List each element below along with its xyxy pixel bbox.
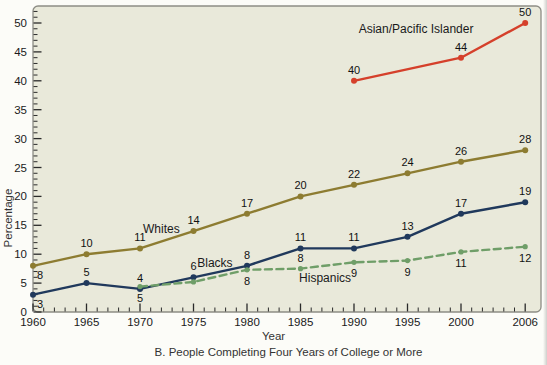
data-point bbox=[351, 260, 356, 265]
point-value-label: 13 bbox=[401, 220, 413, 232]
point-value-label: 5 bbox=[137, 292, 143, 304]
point-value-label: 8 bbox=[244, 249, 250, 261]
data-point bbox=[405, 170, 411, 176]
data-point bbox=[523, 244, 528, 249]
data-point bbox=[351, 182, 357, 188]
x-tick-label: 2000 bbox=[448, 316, 474, 328]
series-name-label-whites: Whites bbox=[143, 222, 180, 236]
y-tick-label: 50 bbox=[14, 17, 27, 29]
point-value-label: 4 bbox=[137, 272, 143, 284]
point-value-label: 8 bbox=[297, 252, 303, 264]
data-point bbox=[351, 245, 357, 251]
data-point bbox=[30, 292, 36, 298]
data-point bbox=[458, 249, 463, 254]
y-tick-label: 25 bbox=[14, 162, 27, 174]
series-name-label-hispanics: Hispanics bbox=[299, 271, 351, 285]
data-point bbox=[458, 55, 464, 61]
point-value-label: 9 bbox=[351, 267, 357, 279]
x-axis-title: Year bbox=[0, 330, 547, 342]
series-name-label-asian-pacific-islander: Asian/Pacific Islander bbox=[359, 22, 474, 36]
college-completion-figure: 0510152025303540455019601965197019751980… bbox=[0, 0, 547, 365]
data-point bbox=[458, 159, 464, 165]
point-value-label: 19 bbox=[519, 185, 531, 197]
point-value-label: 8 bbox=[37, 269, 43, 281]
line-chart: 0510152025303540455019601965197019751980… bbox=[0, 0, 547, 365]
point-value-label: 17 bbox=[241, 197, 253, 209]
point-value-label: 9 bbox=[404, 266, 410, 278]
point-value-label: 20 bbox=[294, 179, 306, 191]
point-value-label: 28 bbox=[519, 133, 531, 145]
point-value-label: 22 bbox=[348, 168, 360, 180]
point-value-label: 11 bbox=[455, 257, 466, 269]
point-value-label: 8 bbox=[244, 275, 250, 287]
x-tick-label: 1975 bbox=[181, 316, 207, 328]
y-tick-label: 10 bbox=[14, 248, 27, 260]
data-point bbox=[191, 228, 197, 234]
x-tick-label: 1985 bbox=[288, 316, 314, 328]
series-name-label-blacks: Blacks bbox=[197, 256, 232, 270]
data-point bbox=[244, 267, 249, 272]
data-point bbox=[298, 245, 304, 251]
data-point bbox=[191, 279, 196, 284]
point-value-label: 10 bbox=[80, 237, 92, 249]
data-point bbox=[405, 234, 411, 240]
y-tick-label: 35 bbox=[14, 104, 27, 116]
data-point bbox=[30, 263, 36, 269]
point-value-label: 44 bbox=[455, 41, 467, 53]
point-value-label: 5 bbox=[83, 266, 89, 278]
data-point bbox=[458, 211, 464, 217]
y-tick-label: 30 bbox=[14, 133, 27, 145]
data-point bbox=[298, 193, 304, 199]
x-tick-label: 1980 bbox=[234, 316, 260, 328]
point-value-label: 50 bbox=[519, 6, 531, 18]
data-point bbox=[405, 258, 410, 263]
data-point bbox=[244, 211, 250, 217]
x-tick-label: 1960 bbox=[20, 316, 46, 328]
point-value-label: 3 bbox=[37, 298, 43, 310]
x-tick-label: 1995 bbox=[395, 316, 421, 328]
figure-caption: B. People Completing Four Years of Colle… bbox=[30, 346, 547, 358]
x-tick-label: 2006 bbox=[512, 316, 538, 328]
y-tick-label: 15 bbox=[14, 219, 27, 231]
point-value-label: 14 bbox=[187, 214, 199, 226]
point-value-label: 11 bbox=[295, 231, 306, 243]
y-tick-label: 40 bbox=[14, 75, 27, 87]
point-value-label: 17 bbox=[455, 197, 467, 209]
x-tick-label: 1965 bbox=[74, 316, 100, 328]
y-tick-label: 20 bbox=[14, 190, 27, 202]
data-point bbox=[84, 251, 90, 257]
point-value-label: 12 bbox=[519, 252, 531, 264]
page-edge-shadow bbox=[543, 0, 547, 365]
y-axis-title: Percentage bbox=[2, 172, 14, 264]
data-point bbox=[137, 284, 142, 289]
point-value-label: 26 bbox=[455, 145, 467, 157]
data-point bbox=[351, 78, 357, 84]
point-value-label: 6 bbox=[190, 260, 196, 272]
point-value-label: 11 bbox=[348, 231, 359, 243]
point-value-label: 24 bbox=[401, 156, 413, 168]
data-point bbox=[522, 20, 528, 26]
data-point bbox=[84, 280, 90, 286]
data-point bbox=[522, 199, 528, 205]
data-point bbox=[522, 147, 528, 153]
data-point bbox=[137, 245, 143, 251]
point-value-label: 40 bbox=[348, 64, 360, 76]
x-tick-label: 1970 bbox=[127, 316, 153, 328]
y-tick-label: 45 bbox=[14, 46, 27, 58]
x-tick-label: 1990 bbox=[341, 316, 367, 328]
y-tick-label: 5 bbox=[21, 277, 27, 289]
